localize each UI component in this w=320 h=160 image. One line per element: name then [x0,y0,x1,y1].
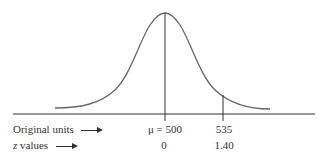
arrow-right-icon [81,130,101,131]
z-values-label-text: values [17,139,48,151]
value-535-original: 535 [216,123,233,136]
normal-curve [55,13,270,109]
mean-original-value: μ = 500 [148,123,182,136]
value-z-score: 1.40 [214,139,233,152]
normal-curve-diagram [0,0,320,160]
original-units-label: Original units [13,123,74,136]
z-values-label: z values [13,139,48,152]
arrow-right-icon [56,146,76,147]
mean-z-value: 0 [161,139,167,152]
